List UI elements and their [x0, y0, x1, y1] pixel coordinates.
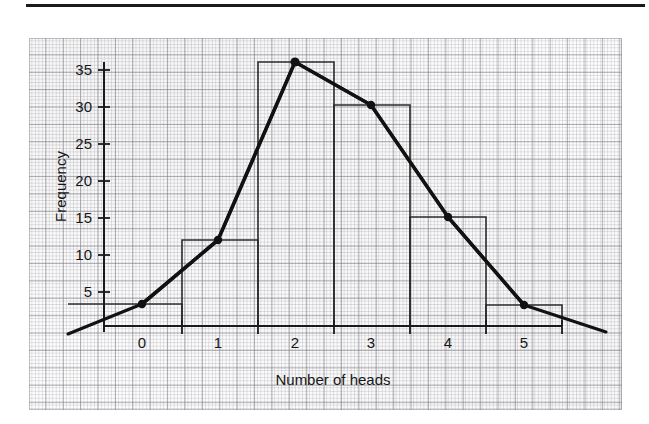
bar-3	[334, 105, 410, 326]
histogram-bars	[68, 62, 562, 326]
data-point-2	[290, 57, 299, 66]
data-point-1	[214, 236, 222, 244]
x-tick-label-0: 0	[128, 334, 156, 351]
x-tick-label-2: 2	[281, 334, 309, 351]
frequency-polygon-line	[68, 62, 606, 334]
data-point-3	[367, 101, 375, 109]
y-tick-label-35: 35	[58, 61, 92, 78]
data-point-5	[520, 301, 528, 309]
bar-1	[182, 240, 258, 326]
data-point-markers	[138, 57, 528, 309]
x-tick-label-4: 4	[434, 334, 462, 351]
y-axis-title: Frequency	[52, 139, 69, 235]
data-point-0	[138, 300, 146, 308]
x-tick-label-1: 1	[204, 334, 232, 351]
frequency-polygon-core	[142, 62, 524, 305]
figure-canvas: 35 30 25 20 15 10 5 0 1 2 3 4 5 Number o…	[0, 0, 649, 424]
y-tick-label-5: 5	[58, 283, 92, 300]
x-tick-label-5: 5	[510, 334, 538, 351]
y-tick-label-10: 10	[58, 246, 92, 263]
data-point-4	[444, 213, 452, 221]
bar-2	[258, 62, 334, 326]
y-tick-label-30: 30	[58, 98, 92, 115]
frequency-polygon-plot	[0, 0, 649, 424]
axis-lines	[104, 62, 562, 332]
bar-4	[410, 217, 486, 326]
bar-0	[68, 304, 182, 326]
x-axis-title: Number of heads	[253, 371, 413, 388]
x-tick-label-3: 3	[357, 334, 385, 351]
